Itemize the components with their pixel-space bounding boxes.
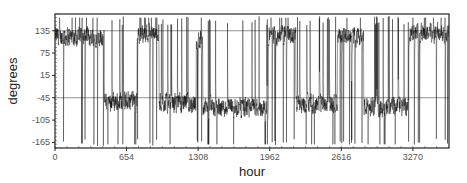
y-axis: 1357515-45-105-165: [32, 14, 57, 148]
y-tick-label: -45: [37, 93, 50, 103]
y-axis-label: degrees: [5, 57, 20, 104]
y-tick-label: -105: [32, 115, 50, 125]
x-tick-label: 0: [52, 152, 57, 162]
y-tick-label: 15: [40, 70, 50, 80]
chart: 1357515-45-105-165 06541308196226163270 …: [0, 0, 467, 183]
x-tick-label: 1308: [188, 152, 208, 162]
x-axis-label: hour: [239, 164, 266, 179]
x-tick-label: 3270: [403, 152, 423, 162]
y-tick-label: 75: [40, 48, 50, 58]
x-tick-label: 1962: [260, 152, 280, 162]
y-tick-label: -165: [32, 137, 50, 147]
x-tick-label: 2616: [331, 152, 351, 162]
y-tick-label: 135: [35, 26, 50, 36]
x-tick-label: 654: [119, 152, 134, 162]
